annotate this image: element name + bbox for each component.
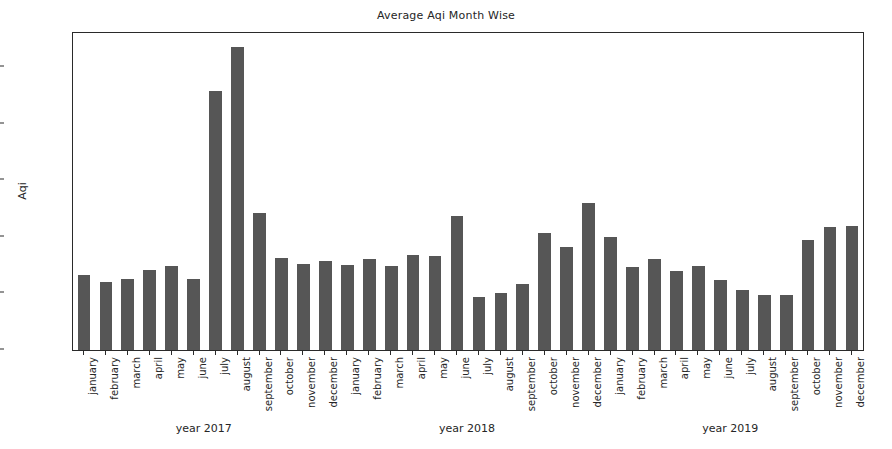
bar [538,233,551,350]
x-tick-label: september [263,357,274,411]
x-tick-mark [610,351,611,355]
x-tick-label: september [789,357,800,411]
y-tick-mark [0,179,4,180]
x-tick-label: october [284,357,295,395]
x-tick-mark [807,351,808,355]
bar [275,258,288,350]
bar [341,265,354,350]
x-tick-mark [478,351,479,355]
bar [407,255,420,350]
x-tick-label: may [701,357,712,379]
bars-layer [73,33,863,350]
bar [648,259,661,350]
x-tick-label: august [767,357,778,391]
x-tick-label: october [811,357,822,395]
x-tick-mark [654,351,655,355]
x-tick-mark [851,351,852,355]
x-tick-label: april [416,357,427,379]
x-tick-mark [149,351,150,355]
x-group-label: year 2019 [702,422,758,435]
x-group-label: year 2018 [439,422,495,435]
bar [780,295,793,350]
y-tick-mark [0,292,4,293]
bar [560,247,573,350]
x-tick-mark [390,351,391,355]
x-tick-mark [193,351,194,355]
x-tick-label: april [679,357,690,379]
x-tick-mark [302,351,303,355]
x-tick-mark [105,351,106,355]
bar [143,270,156,350]
x-tick-label: may [438,357,449,379]
x-tick-label: december [328,357,339,408]
x-tick-label: january [614,357,625,395]
bar [363,259,376,350]
x-tick-mark [368,351,369,355]
x-tick-mark [763,351,764,355]
x-tick-label: may [175,357,186,379]
bar [846,226,859,350]
x-tick-label: november [833,357,844,408]
x-tick-mark [566,351,567,355]
x-tick-mark [324,351,325,355]
bar [604,237,617,350]
x-tick-mark [434,351,435,355]
bar [253,213,266,350]
x-tick-label: june [723,357,734,379]
x-group-label: year 2017 [176,422,232,435]
y-tick-mark [0,122,4,123]
x-tick-label: november [306,357,317,408]
bar [714,280,727,350]
bar [736,290,749,350]
bar [758,295,771,350]
bar [626,267,639,350]
bar [495,293,508,350]
x-tick-label: february [372,357,383,400]
bar [582,203,595,350]
y-axis: Aqi 0100200300400500 [0,0,72,449]
x-tick-mark [412,351,413,355]
chart-title: Average Aqi Month Wise [0,9,892,22]
x-tick-mark [259,351,260,355]
x-tick-mark [675,351,676,355]
x-tick-label: april [153,357,164,379]
y-tick-mark [0,235,4,236]
x-tick-label: december [855,357,866,408]
bar [451,216,464,350]
x-tick-label: november [570,357,581,408]
y-axis-label: Aqi [16,182,29,199]
x-tick-mark [237,351,238,355]
x-tick-label: july [745,357,756,375]
x-tick-mark [588,351,589,355]
x-tick-label: march [394,357,405,389]
x-tick-label: september [526,357,537,411]
bar [187,279,200,350]
bar [78,275,91,350]
x-tick-mark [83,351,84,355]
x-tick-label: january [87,357,98,395]
x-tick-mark [632,351,633,355]
bar [516,284,529,350]
x-axis: januaryfebruarymarchaprilmayjunejulyaugu… [72,351,864,449]
x-tick-mark [719,351,720,355]
bar [692,266,705,350]
bar [297,264,310,350]
x-tick-label: august [504,357,515,391]
x-tick-mark [697,351,698,355]
x-tick-mark [741,351,742,355]
x-tick-label: february [636,357,647,400]
bar [231,47,244,350]
x-tick-label: december [592,357,603,408]
x-tick-label: march [658,357,669,389]
y-tick-mark [0,65,4,66]
x-tick-label: august [241,357,252,391]
x-tick-label: june [460,357,471,379]
x-tick-label: march [131,357,142,389]
bar [670,271,683,350]
x-tick-label: january [350,357,361,395]
y-tick-mark [0,349,4,350]
bar [319,261,332,350]
x-tick-mark [522,351,523,355]
x-tick-label: october [548,357,559,395]
bar [209,91,222,350]
